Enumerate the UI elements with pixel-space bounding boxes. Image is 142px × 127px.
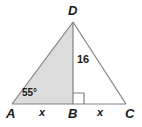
vertex-label-c: C bbox=[125, 107, 134, 120]
vertex-label-b: B bbox=[68, 107, 77, 120]
vertex-label-d: D bbox=[68, 4, 77, 17]
angle-label-a: 55° bbox=[22, 88, 37, 98]
segment-label-bc: x bbox=[97, 107, 103, 118]
geometry-figure: D A B C 55° 16 x x bbox=[0, 0, 142, 127]
vertex-label-a: A bbox=[6, 107, 15, 120]
segment-label-ab: x bbox=[39, 107, 45, 118]
altitude-length-label: 16 bbox=[77, 54, 89, 65]
